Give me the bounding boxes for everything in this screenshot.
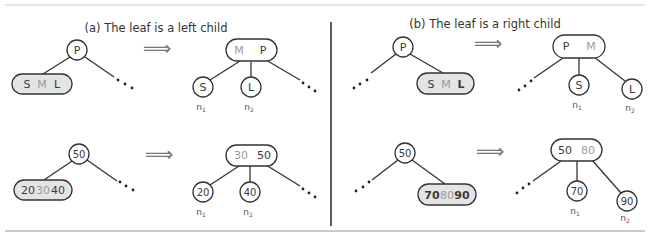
edge [266, 165, 300, 186]
edge [410, 54, 443, 73]
leaf-key-large: L [457, 78, 464, 91]
parent-node [553, 35, 605, 58]
edge [210, 61, 240, 80]
b-top-before-tree: P S M L [353, 37, 474, 94]
parent-key-promoted: M [586, 40, 596, 53]
edge [44, 161, 72, 180]
ellipsis-icon [117, 79, 134, 90]
child-n1-label: 20 [197, 187, 210, 198]
a-bottom-before-tree: 50 20 30 40 [14, 144, 134, 200]
edge [43, 57, 70, 74]
n2-caption: n2 [625, 103, 635, 114]
n1-caption: n1 [570, 206, 580, 217]
ellipsis-icon [353, 79, 369, 90]
caption-a: (a) The leaf is a left child [85, 21, 228, 35]
leaf-key-middle: M [441, 78, 451, 91]
leaf-key-small: S [428, 78, 435, 91]
transform-arrow-icon: ⟹ [143, 36, 172, 60]
edge [592, 160, 621, 193]
ellipsis-icon [302, 82, 317, 93]
parent-key: 50 [558, 144, 572, 157]
n2-caption: n2 [244, 102, 254, 113]
leaf-key-small: 70 [424, 189, 440, 202]
b-top-after-tree: P M S L n1 n2 [518, 35, 642, 114]
edge [412, 160, 445, 184]
leaf-key-small: 20 [21, 184, 35, 197]
ellipsis-icon [119, 181, 135, 192]
ellipsis-icon [355, 181, 371, 193]
child-n2-label: L [629, 83, 636, 96]
edge [372, 160, 398, 180]
b-bottom-after-tree: 50 80 70 90 n1 n2 [516, 139, 637, 224]
parent-node-label: P [400, 41, 407, 54]
edge [85, 57, 114, 77]
diagram-canvas: (a) The leaf is a left child P S M L ⟹ M… [0, 0, 650, 240]
parent-key-promoted: 80 [581, 144, 595, 157]
ellipsis-icon [518, 80, 533, 92]
n1-caption: n1 [196, 207, 206, 218]
a-top-after-tree: M P S L n1 n2 [193, 39, 316, 113]
ellipsis-icon [302, 188, 317, 199]
edge [533, 161, 561, 181]
leaf-key-middle: 80 [440, 189, 454, 202]
parent-key-promoted: M [234, 44, 244, 57]
transform-arrow-icon: ⟹ [474, 31, 503, 55]
b-bottom-before-tree: 50 70 80 90 [355, 143, 476, 205]
a-bottom-after-tree: 30 50 20 40 n1 n2 [193, 145, 316, 218]
n1-caption: n1 [196, 102, 206, 113]
edge [87, 160, 117, 181]
edge [266, 60, 300, 80]
child-n2-label: 40 [244, 187, 257, 198]
leaf-key-large: 90 [454, 189, 470, 202]
transform-arrow-icon: ⟹ [476, 139, 505, 163]
edge [371, 54, 396, 73]
ellipsis-icon [516, 183, 531, 195]
parent-key: P [260, 44, 267, 57]
n1-caption: n1 [572, 100, 582, 111]
edge [594, 57, 625, 81]
transform-arrow-icon: ⟹ [145, 142, 174, 166]
n2-caption: n2 [243, 207, 253, 218]
parent-key-promoted: 30 [234, 149, 248, 162]
child-n2-label: 90 [621, 196, 634, 207]
leaf-key-middle: 30 [36, 184, 50, 197]
child-n1-label: S [576, 79, 583, 92]
edge [534, 58, 563, 78]
leaf-key-middle: M [37, 78, 47, 91]
parent-node-label: P [74, 44, 81, 57]
leaf-key-large: L [54, 78, 61, 91]
caption-b: (b) The leaf is a right child [409, 17, 561, 31]
child-n1-label: S [200, 81, 207, 94]
child-n1-label: 70 [571, 186, 584, 197]
edge [210, 166, 239, 185]
parent-node-label: 50 [73, 149, 86, 160]
parent-key: 50 [257, 149, 271, 162]
parent-node-label: 50 [399, 148, 412, 159]
a-top-before-tree: P S M L [12, 40, 133, 94]
child-n2-label: L [248, 81, 255, 94]
leaf-key-small: S [24, 78, 31, 91]
parent-key: P [563, 40, 570, 53]
n2-caption: n2 [620, 213, 630, 224]
leaf-key-large: 40 [51, 184, 65, 197]
